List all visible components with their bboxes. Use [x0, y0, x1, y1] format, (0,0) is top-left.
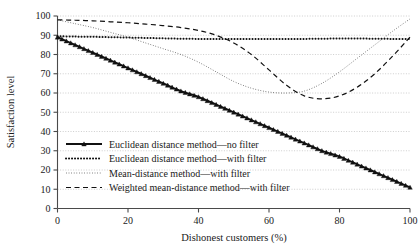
x-axis-title: Dishonest customers (%): [181, 232, 287, 244]
y-tick-label-70: 70: [41, 68, 51, 79]
y-tick-label-40: 40: [41, 126, 51, 137]
y-tick-label-10: 10: [41, 184, 51, 195]
y-axis-title: Satisfaction level: [5, 76, 16, 149]
y-tick-label-0: 0: [46, 203, 51, 214]
x-tick-label-40: 40: [194, 215, 204, 226]
x-tick-label-100: 100: [403, 215, 418, 226]
legend-label-0[interactable]: Euclidean distance method—no filter: [109, 139, 259, 150]
legend-label-3[interactable]: Weighted mean-distance method—with filte…: [109, 182, 290, 193]
chart-figure: 0102030405060708090100 020406080100 Sati…: [0, 0, 420, 246]
chart-plot-svg: 0102030405060708090100 020406080100 Sati…: [0, 0, 420, 246]
x-tick-label-0: 0: [55, 215, 60, 226]
y-tick-label-30: 30: [41, 145, 51, 156]
y-tick-label-50: 50: [41, 107, 51, 118]
y-tick-label-80: 80: [41, 49, 51, 60]
legend-label-1[interactable]: Euclidean distance method—with filter: [109, 153, 267, 164]
y-tick-label-60: 60: [41, 87, 51, 98]
x-tick-label-60: 60: [264, 215, 274, 226]
y-tick-label-20: 20: [41, 164, 51, 175]
x-tick-label-80: 80: [335, 215, 345, 226]
y-tick-label-90: 90: [41, 30, 51, 41]
y-tick-label-100: 100: [36, 10, 51, 21]
x-tick-label-20: 20: [123, 215, 133, 226]
legend-label-2[interactable]: Mean-distance method—with filter: [109, 168, 251, 179]
